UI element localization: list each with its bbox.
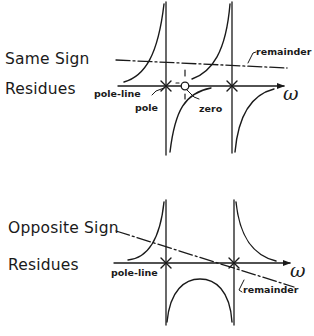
same-sign-plot [116, 2, 287, 155]
same-sign-subtitle: Residues [5, 80, 76, 98]
pole-leader [152, 88, 164, 95]
omega-axis-label: ω [283, 82, 299, 104]
pole-label: pole [135, 102, 158, 113]
pole-line-label-bottom: pole-line [111, 267, 158, 278]
same-sign-title: Same Sign [5, 50, 90, 68]
remainder-r-line [116, 60, 287, 68]
opposite-sign-subtitle: Residues [8, 256, 79, 274]
curve-middle-upper [192, 4, 230, 79]
curve-middle-arch [167, 279, 232, 322]
remainder-label-bottom: remainder [243, 284, 298, 295]
zero-label: zero [199, 103, 222, 114]
opposite-sign-title: Opposite Sign [8, 219, 119, 237]
remainder-line-bottom [116, 231, 294, 287]
zero-marker [181, 82, 189, 90]
curve-middle-lower [170, 88, 211, 152]
remainder-r-label: remainder R [256, 46, 314, 57]
pole-line-label: pole-line [94, 88, 141, 99]
curve-left-branch [124, 4, 164, 82]
remainder-r-leader [248, 52, 256, 63]
omega-axis-label-bottom: ω [290, 259, 306, 281]
curve-right-lower [235, 89, 274, 152]
curve-left-branch-bottom [128, 202, 164, 260]
residue-diagram-canvas: Same Sign Residues pole-line pole zero r… [0, 0, 314, 336]
curve-right-branch-bottom [236, 202, 276, 261]
opposite-sign-plot [114, 200, 294, 325]
